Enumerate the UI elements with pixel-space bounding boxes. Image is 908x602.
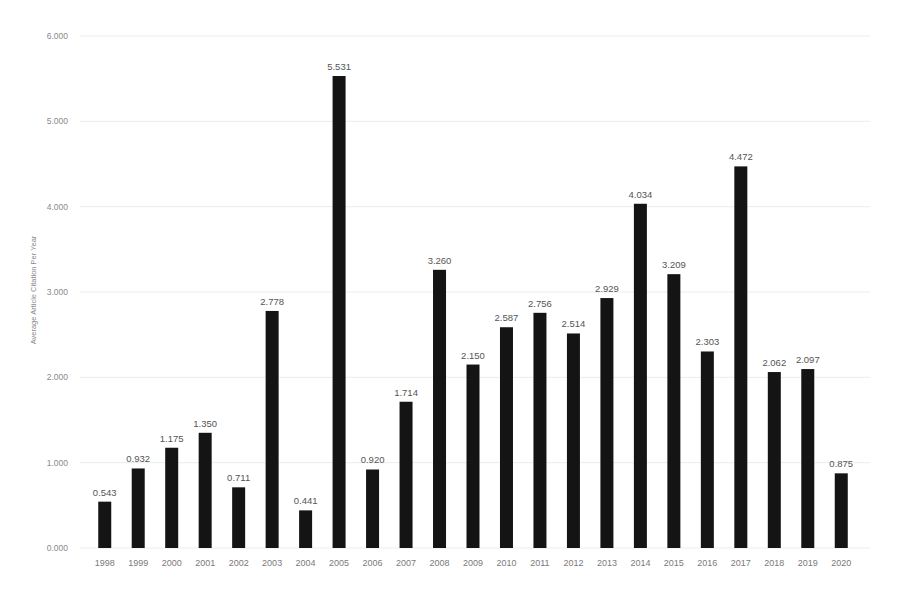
bar-2014 [634,204,647,548]
bar-2008 [433,270,446,548]
data-label: 0.543 [93,487,117,498]
y-axis-label: Average Article Citation Per Year [29,235,38,344]
data-label: 2.514 [562,318,586,329]
data-label: 2.150 [461,350,485,361]
bar-2009 [467,365,480,548]
x-tick-label: 2017 [731,558,751,568]
x-tick-label: 2009 [463,558,483,568]
bar-2011 [533,313,546,548]
bar-2001 [199,433,212,548]
x-tick-label: 2010 [496,558,516,568]
bar-2004 [299,510,312,548]
y-tick-label: 2.000 [47,372,69,382]
data-label: 4.472 [729,151,753,162]
x-tick-label: 2007 [396,558,416,568]
bar-2020 [835,473,848,548]
x-axis: 1998199920002001200220032004200520062007… [95,558,852,568]
x-tick-label: 2003 [262,558,282,568]
x-tick-label: 2020 [831,558,851,568]
bar-2017 [734,166,747,548]
bar-2019 [801,369,814,548]
bar-1999 [132,468,145,548]
data-label: 0.875 [829,458,853,469]
bar-2012 [567,333,580,548]
y-tick-label: 1.000 [47,458,69,468]
bar-1998 [98,502,111,548]
bar-2005 [333,76,346,548]
x-tick-label: 2005 [329,558,349,568]
bar-2007 [400,402,413,548]
bars [98,76,848,548]
x-tick-label: 2011 [530,558,549,568]
x-tick-label: 2006 [363,558,383,568]
x-tick-label: 2000 [162,558,182,568]
data-label: 1.175 [160,433,184,444]
bar-2010 [500,327,513,548]
x-tick-label: 2012 [563,558,583,568]
data-label: 2.097 [796,354,820,365]
x-tick-label: 2001 [195,558,215,568]
bar-2006 [366,469,379,548]
data-label: 1.714 [394,387,418,398]
data-label: 2.778 [260,296,284,307]
bar-2015 [667,274,680,548]
data-label: 2.929 [595,283,619,294]
data-label: 2.303 [695,336,719,347]
x-tick-label: 2014 [630,558,650,568]
x-tick-label: 2018 [764,558,784,568]
data-label: 5.531 [327,61,351,72]
x-tick-label: 2002 [229,558,249,568]
data-label: 2.062 [762,357,786,368]
x-tick-label: 2019 [798,558,818,568]
x-tick-label: 2008 [430,558,450,568]
y-tick-label: 6.000 [47,31,69,41]
data-label: 1.350 [193,418,217,429]
data-label: 0.711 [227,472,250,483]
bar-2002 [232,487,245,548]
x-tick-label: 2004 [296,558,316,568]
bar-2000 [165,448,178,548]
bar-2003 [266,311,279,548]
data-label: 0.932 [126,453,150,464]
data-label: 0.441 [294,495,318,506]
bar-2013 [600,298,613,548]
bar-chart: Average Article Citation Per Year 0.0001… [0,0,908,602]
x-tick-label: 1998 [95,558,115,568]
y-axis: 0.0001.0002.0003.0004.0005.0006.000 [47,31,69,553]
data-label: 2.587 [495,312,519,323]
y-tick-label: 5.000 [47,116,69,126]
x-tick-label: 2015 [664,558,684,568]
x-tick-label: 2013 [597,558,617,568]
bar-2016 [701,351,714,548]
y-tick-label: 4.000 [47,202,69,212]
data-label: 3.209 [662,259,686,270]
data-label: 2.756 [528,298,552,309]
y-tick-label: 0.000 [47,543,69,553]
data-label: 0.920 [361,454,385,465]
x-tick-label: 1999 [128,558,148,568]
data-label: 4.034 [629,189,653,200]
bar-2018 [768,372,781,548]
x-tick-label: 2016 [697,558,717,568]
y-tick-label: 3.000 [47,287,69,297]
data-label: 3.260 [428,255,452,266]
